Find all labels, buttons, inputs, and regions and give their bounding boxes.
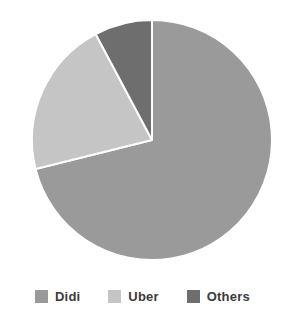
legend-swatch-others: [187, 290, 200, 303]
chart-legend: Didi Uber Others: [0, 283, 298, 309]
pie-plot-area: [0, 0, 298, 276]
pie-slice-group: [32, 20, 272, 260]
pie-svg: [0, 0, 298, 276]
legend-label-others: Others: [207, 290, 250, 303]
legend-item-others[interactable]: Others: [187, 290, 250, 303]
legend-item-uber[interactable]: Uber: [108, 290, 158, 303]
legend-swatch-uber: [108, 290, 121, 303]
legend-swatch-didi: [35, 290, 48, 303]
legend-item-didi[interactable]: Didi: [35, 290, 80, 303]
pie-chart-figure: Didi Uber Others: [0, 0, 298, 323]
legend-label-didi: Didi: [55, 290, 80, 303]
legend-label-uber: Uber: [128, 290, 158, 303]
